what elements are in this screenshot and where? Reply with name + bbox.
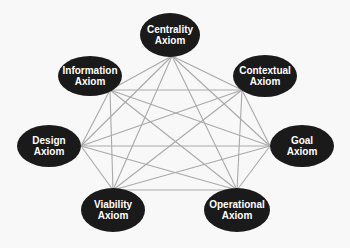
- node-centrality: CentralityAxiom: [140, 13, 200, 57]
- node-operational: OperationalAxiom: [204, 188, 270, 232]
- node-viability-title: Viability: [94, 199, 132, 210]
- edge-viability-design: [81, 146, 113, 190]
- edge-contextual-operational: [237, 90, 242, 190]
- edge-centrality-contextual: [172, 56, 242, 90]
- axiom-network-diagram: CentralityAxiomContextualAxiomGoalAxiomO…: [0, 0, 350, 248]
- node-contextual-subtitle: Axiom: [250, 76, 281, 87]
- edge-goal-viability: [113, 146, 270, 190]
- edge-operational-design: [81, 146, 237, 190]
- node-operational-title: Operational: [209, 199, 265, 210]
- edge-operational-information: [110, 90, 237, 190]
- edge-contextual-viability: [113, 90, 242, 190]
- edge-goal-operational: [237, 146, 270, 190]
- node-contextual-title: Contextual: [239, 65, 291, 76]
- node-information: InformationAxiom: [58, 56, 122, 96]
- node-goal-subtitle: Axiom: [287, 146, 318, 157]
- node-design: DesignAxiom: [17, 125, 81, 167]
- node-information-subtitle: Axiom: [75, 76, 106, 87]
- node-goal: GoalAxiom: [270, 125, 334, 167]
- node-operational-subtitle: Axiom: [222, 210, 253, 221]
- node-design-subtitle: Axiom: [34, 146, 65, 157]
- node-contextual: ContextualAxiom: [233, 55, 297, 97]
- node-viability-subtitle: Axiom: [98, 210, 129, 221]
- node-viability: ViabilityAxiom: [81, 188, 145, 232]
- node-goal-title: Goal: [291, 135, 313, 146]
- edge-viability-information: [110, 90, 113, 190]
- node-design-title: Design: [32, 135, 65, 146]
- node-centrality-subtitle: Axiom: [155, 35, 186, 46]
- node-information-title: Information: [63, 65, 118, 76]
- node-centrality-title: Centrality: [147, 24, 193, 35]
